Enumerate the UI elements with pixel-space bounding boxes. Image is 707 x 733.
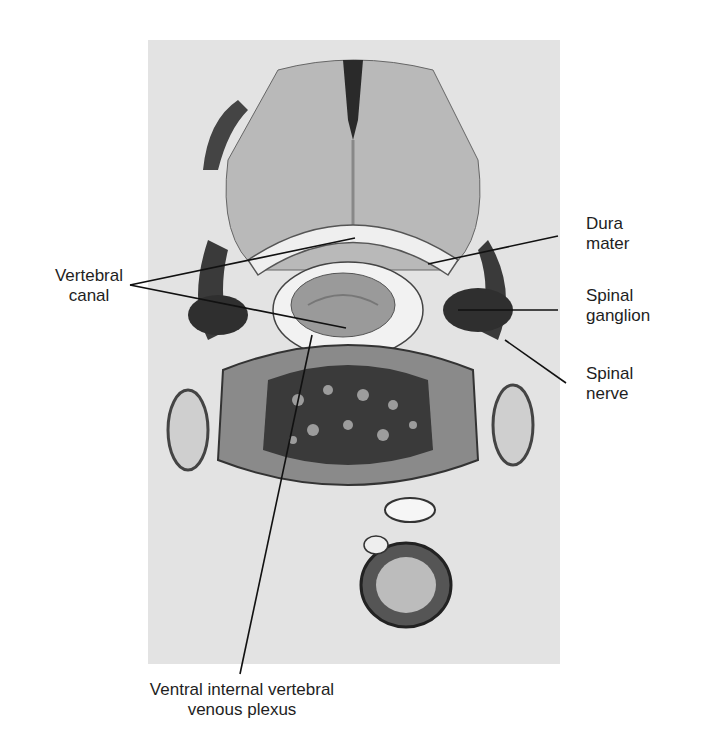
label-spinal-ganglion-line2: ganglion <box>586 306 650 326</box>
cross-section-photo <box>148 40 560 664</box>
label-spinal-ganglion: Spinal ganglion <box>586 286 650 326</box>
label-ventral-internal-vertebral-venous-plexus: Ventral internal vertebral venous plexus <box>112 680 372 720</box>
label-vertebral-canal: Vertebral canal <box>44 266 134 306</box>
label-ventral-plexus-line2: venous plexus <box>112 700 372 720</box>
label-dura-mater: Dura mater <box>586 214 629 254</box>
label-ventral-plexus-line1: Ventral internal vertebral <box>112 680 372 700</box>
label-vertebral-canal-line2: canal <box>44 286 134 306</box>
label-dura-mater-line1: Dura <box>586 214 629 234</box>
label-dura-mater-line2: mater <box>586 234 629 254</box>
label-spinal-nerve: Spinal nerve <box>586 364 633 404</box>
label-vertebral-canal-line1: Vertebral <box>44 266 134 286</box>
label-spinal-nerve-line2: nerve <box>586 384 633 404</box>
section-illustration <box>148 40 560 664</box>
anatomy-figure: Vertebral canal Dura mater Spinal gangli… <box>0 0 707 733</box>
label-spinal-ganglion-line1: Spinal <box>586 286 650 306</box>
label-spinal-nerve-line1: Spinal <box>586 364 633 384</box>
